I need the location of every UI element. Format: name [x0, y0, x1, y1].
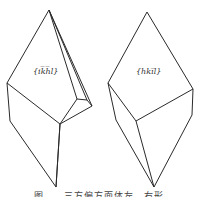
right-crystal [108, 12, 193, 187]
crystal-diagram [0, 0, 198, 197]
right-face-label: {hki̅l} [136, 67, 161, 76]
figure-caption: 图 ... 三方偏方面体左、右形 [0, 189, 198, 197]
left-face-label: {ik̅h̅l} [33, 67, 58, 76]
left-crystal [7, 10, 92, 187]
